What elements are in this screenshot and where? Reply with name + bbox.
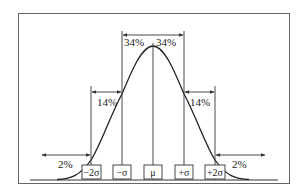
marker-mu: μ xyxy=(144,165,162,179)
marker-plus-2sigma: +2σ xyxy=(205,165,225,179)
svg-text:+σ: +σ xyxy=(178,167,190,178)
label-left-14: 14% xyxy=(97,96,117,108)
normal-distribution-diagram: 34% 34% 14% 14% 2% 2% −2σ −σ μ +σ +2σ xyxy=(0,0,302,196)
svg-text:−σ: −σ xyxy=(116,167,128,178)
marker-minus-2sigma: −2σ xyxy=(82,165,101,179)
svg-text:μ: μ xyxy=(150,167,155,178)
label-right-34: 34% xyxy=(156,36,176,48)
marker-plus-sigma: +σ xyxy=(175,165,193,179)
svg-text:−2σ: −2σ xyxy=(83,167,100,178)
label-left-tail: 2% xyxy=(58,158,73,170)
svg-text:+2σ: +2σ xyxy=(207,167,224,178)
label-left-34: 34% xyxy=(124,36,144,48)
label-right-14: 14% xyxy=(190,96,210,108)
marker-minus-sigma: −σ xyxy=(113,165,131,179)
label-right-tail: 2% xyxy=(232,158,247,170)
